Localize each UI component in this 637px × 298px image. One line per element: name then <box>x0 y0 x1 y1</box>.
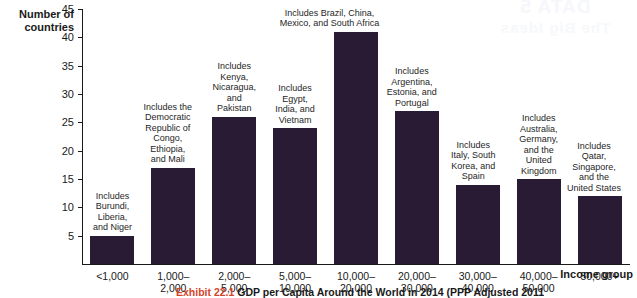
bar[interactable] <box>273 128 317 264</box>
y-tick-mark <box>78 122 83 123</box>
bar-group[interactable]: Includes Brazil, China, Mexico, and Sout… <box>334 8 378 264</box>
figure-caption: Exhibit 22.1 GDP per Capita Around the W… <box>176 286 544 298</box>
bar-annotation: Includes Qatar, Singapore, and the Unite… <box>561 141 627 197</box>
y-tick-mark <box>78 9 83 10</box>
bar-annotation: Includes Burundi, Liberia, and Niger <box>93 191 132 236</box>
bar-group[interactable]: Includes Australia, Germany, and the Uni… <box>517 113 561 264</box>
y-tick-label: 45 <box>62 4 74 15</box>
x-axis-title: Income group <box>560 268 633 280</box>
bar[interactable] <box>456 185 500 264</box>
y-tick-label: 40 <box>62 32 74 43</box>
y-axis-line <box>82 9 83 265</box>
y-tick-mark <box>78 179 83 180</box>
bar-annotation: Includes Kenya, Nicaragua, and Pakistan <box>212 61 256 117</box>
bar[interactable] <box>578 196 622 264</box>
y-tick-mark <box>78 151 83 152</box>
bar-annotation: Includes Argentina, Estonia, and Portuga… <box>380 66 444 111</box>
y-tick-label: 15 <box>62 174 74 185</box>
bar-annotation: Includes Australia, Germany, and the Uni… <box>519 113 558 179</box>
y-tick-mark <box>78 236 83 237</box>
bar-group[interactable]: Includes Kenya, Nicaragua, and Pakistan2… <box>212 61 256 264</box>
y-tick-mark <box>78 207 83 208</box>
caption-title: GDP per Capita Around the World in 2014 … <box>237 286 544 298</box>
bar-group[interactable]: Includes Burundi, Liberia, and Niger<1,0… <box>90 191 134 264</box>
y-tick-mark <box>78 94 83 95</box>
plot-area: 51015202530354045 Includes Burundi, Libe… <box>82 9 630 265</box>
bar[interactable] <box>395 111 439 264</box>
bar-annotation: Includes Brazil, China, Mexico, and Sout… <box>255 8 405 32</box>
y-tick-label: 10 <box>62 202 74 213</box>
bar[interactable] <box>151 168 195 264</box>
bar-annotation: Includes Italy, South Korea, and Spain <box>442 140 504 185</box>
bar-group[interactable]: Includes Qatar, Singapore, and the Unite… <box>578 141 622 265</box>
x-axis-line <box>82 264 630 265</box>
y-tick-label: 35 <box>62 61 74 72</box>
bar[interactable] <box>212 117 256 264</box>
y-tick-label: 30 <box>62 89 74 100</box>
y-tick-label: 5 <box>68 231 74 242</box>
bar-annotation: Includes the Democratic Republic of Cong… <box>135 102 201 168</box>
bar-group[interactable]: Includes Argentina, Estonia, and Portuga… <box>395 66 439 264</box>
bar-group[interactable]: Includes the Democratic Republic of Cong… <box>151 102 195 264</box>
y-tick-mark <box>78 66 83 67</box>
bar-group[interactable]: Includes Italy, South Korea, and Spain30… <box>456 140 500 264</box>
y-tick-label: 20 <box>62 146 74 157</box>
x-tick-label: <1,000 <box>90 270 134 282</box>
bar[interactable] <box>90 236 134 264</box>
caption-exhibit-number: Exhibit 22.1 <box>176 286 234 298</box>
bar-group[interactable]: Includes Egypt, India, and Vietnam5,000–… <box>273 83 317 264</box>
y-tick-mark <box>78 37 83 38</box>
bar-annotation: Includes Egypt, India, and Vietnam <box>275 83 315 128</box>
bar[interactable] <box>517 179 561 264</box>
bar[interactable] <box>334 32 378 264</box>
y-tick-label: 25 <box>62 117 74 128</box>
